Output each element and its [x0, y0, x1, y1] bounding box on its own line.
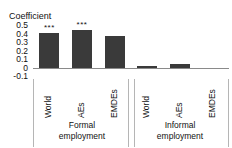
- x-category-label: AEs: [77, 102, 86, 118]
- y-tick-label: -0.1: [6, 72, 28, 81]
- bar: [39, 33, 59, 68]
- x-category-label: World: [142, 96, 151, 118]
- significance-marker: ***: [44, 24, 55, 32]
- significance-marker: ***: [77, 21, 88, 29]
- x-category-label: EMDEs: [208, 89, 217, 118]
- group-caption-line2: employment: [33, 131, 131, 142]
- bar: [72, 30, 92, 68]
- x-category-label: AEs: [175, 102, 184, 118]
- plot-area: [33, 21, 229, 77]
- group-caption-line1: Informal: [131, 120, 229, 131]
- group-caption: Informalemployment: [131, 120, 229, 142]
- bar: [105, 36, 125, 68]
- x-category-label: World: [44, 96, 53, 118]
- bar: [137, 66, 157, 68]
- group-caption-line2: employment: [131, 131, 229, 142]
- group-caption: Formalemployment: [33, 120, 131, 142]
- bar: [170, 64, 190, 68]
- chart-figure: Coefficient 0.50.40.30.20.10-0.1 WorldAE…: [0, 0, 232, 148]
- x-axis-category-labels: WorldAEsEMDEsWorldAEsEMDEs: [33, 78, 229, 119]
- x-category-label: EMDEs: [110, 89, 119, 118]
- group-caption-line1: Formal: [33, 120, 131, 131]
